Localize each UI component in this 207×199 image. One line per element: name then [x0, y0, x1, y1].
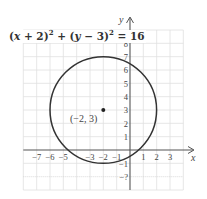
x-axis-label: x	[190, 152, 196, 163]
equation-label: (x + 2)2 + (y − 3)2 = 16	[8, 30, 146, 43]
center-point	[101, 108, 105, 112]
y-tick: 2	[124, 119, 128, 129]
eq-part: + (	[54, 30, 75, 42]
y-tick: 3	[124, 105, 128, 115]
x-tick: −5	[59, 152, 68, 162]
y-tick: 1	[124, 132, 128, 142]
x-tick: −2	[99, 152, 108, 162]
x-tick: 3	[168, 152, 172, 162]
center-point-label: (−2, 3)	[70, 113, 97, 125]
y-tick: 5	[124, 79, 128, 89]
x-tick: −3	[85, 152, 94, 162]
eq-part: + 2)	[20, 30, 48, 42]
x-tick: 2	[155, 152, 159, 162]
y-tick: −?	[119, 172, 128, 182]
eq-part: = 16	[114, 30, 145, 42]
y-axis-label: y	[118, 14, 124, 25]
x-tick: 1	[141, 152, 145, 162]
x-tick: −6	[45, 152, 54, 162]
x-tick-labels: −7 −6 −5 −3 −2 −1 1 2 3	[32, 152, 172, 162]
y-tick: 6	[124, 65, 128, 75]
y-tick: 7	[124, 52, 128, 62]
y-tick: −1	[119, 159, 128, 169]
x-tick: −7	[32, 152, 41, 162]
eq-part: − 3)	[81, 30, 109, 42]
